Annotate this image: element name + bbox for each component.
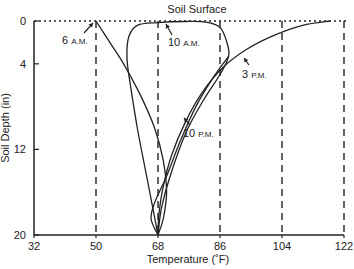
y-tick-label: 12	[14, 143, 26, 155]
annotation-label-10-p-m: 10 P.M.	[183, 127, 214, 139]
y-tick-label: 4	[20, 58, 26, 70]
y-axis-title: Soil Depth (in)	[0, 93, 11, 163]
series-line-10-p-m	[151, 56, 229, 235]
x-tick-label: 104	[273, 240, 291, 252]
annotation-label-10-a-m: 10 A.M.	[168, 36, 200, 48]
x-tick-label: 86	[214, 240, 226, 252]
series-line-6-a-m	[96, 21, 167, 235]
annotations: 6 A.M.10 A.M.3 P.M.10 P.M.	[62, 23, 267, 139]
x-axis-title: Temperature (˚F)	[147, 253, 230, 265]
series-line-10-a-m	[127, 21, 229, 235]
x-tick-label: 50	[90, 240, 102, 252]
y-tick-label: 0	[20, 15, 26, 27]
y-tick-label: 20	[14, 229, 26, 241]
soil-temperature-chart: Soil Surface 32506886104122041220 6 A.M.…	[0, 0, 354, 269]
x-tick-label: 32	[28, 240, 40, 252]
chart-title: Soil Surface	[167, 3, 226, 15]
x-tick-label: 68	[152, 240, 164, 252]
x-tick-label: 122	[335, 240, 353, 252]
annotation-label-6-a-m: 6 A.M.	[62, 34, 88, 46]
series-group	[96, 21, 330, 235]
annotation-label-3-p-m: 3 P.M.	[242, 68, 267, 80]
